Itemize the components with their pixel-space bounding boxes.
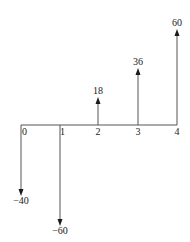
- cash-flow-0: −40: [13, 125, 29, 206]
- period-label-1: 1: [60, 126, 65, 137]
- period-label-3: 3: [136, 126, 141, 137]
- cash-flow-diagram: 01234 −40−60183660: [0, 0, 190, 242]
- cash-flow-value: 18: [93, 85, 103, 96]
- cash-flow-1: −60: [52, 125, 68, 236]
- period-label-0: 0: [22, 126, 27, 137]
- period-label-2: 2: [96, 126, 101, 137]
- cash-flow-value: 60: [172, 17, 182, 28]
- cash-flow-4: 60: [172, 17, 182, 125]
- cash-flow-2: 18: [93, 85, 103, 125]
- period-labels: 01234: [22, 126, 180, 137]
- cash-flow-3: 36: [133, 56, 143, 125]
- arrow-up-icon: [136, 68, 141, 75]
- cash-flow-value: −40: [13, 195, 29, 206]
- arrow-up-icon: [96, 97, 101, 104]
- arrow-up-icon: [175, 29, 180, 36]
- cash-flow-value: 36: [133, 56, 143, 67]
- period-label-4: 4: [175, 126, 180, 137]
- cash-flow-value: −60: [52, 225, 68, 236]
